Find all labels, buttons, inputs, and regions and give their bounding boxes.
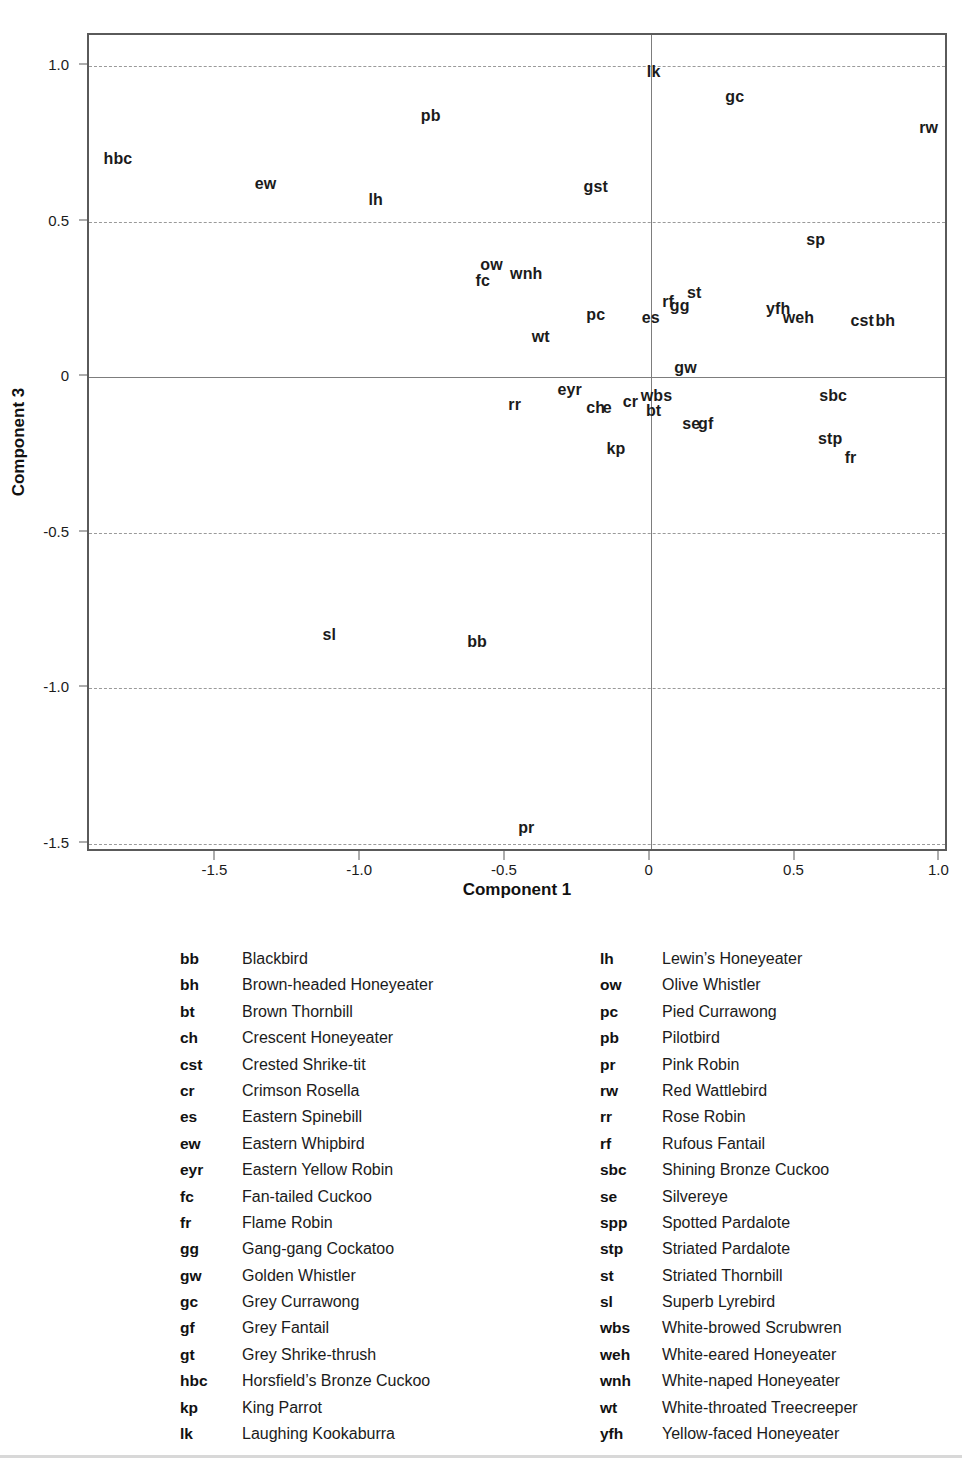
legend-column-right: lhLewin’s HoneyeaterowOlive WhistlerpcPi…: [600, 950, 962, 1451]
y-tick--0.5: -0.5: [43, 522, 81, 539]
legend-name-pc: Pied Currawong: [662, 1003, 777, 1021]
x-tick--0.5: -0.5: [491, 861, 517, 878]
point-label-ew: ew: [255, 175, 277, 193]
legend-code-gg: gg: [180, 1240, 242, 1258]
x-tick-0.5: 0.5: [783, 861, 804, 878]
legend-row-bb: bbBlackbird: [180, 950, 580, 976]
legend-code-wbs: wbs: [600, 1319, 662, 1337]
y-tick-0.5: 0.5: [48, 211, 81, 228]
legend-name-kp: King Parrot: [242, 1399, 322, 1417]
gridline-y-0.5: [89, 222, 945, 223]
legend-code-bh: bh: [180, 976, 242, 994]
plot-frame: lkgcpbrwhbcewgstlhspowwnhfcstrfggyfhpces…: [87, 33, 947, 851]
legend-row-rf: rfRufous Fantail: [600, 1135, 962, 1161]
y-tick-0: 0: [61, 367, 81, 384]
point-label-kp: kp: [607, 440, 626, 458]
legend-code-gf: gf: [180, 1319, 242, 1337]
legend-row-pc: pcPied Currawong: [600, 1003, 962, 1029]
legend-row-se: seSilvereye: [600, 1188, 962, 1214]
legend-row-cr: crCrimson Rosella: [180, 1082, 580, 1108]
point-label-eyr: eyr: [558, 381, 582, 399]
point-label-pr: pr: [518, 819, 534, 837]
legend-name-lk: Laughing Kookaburra: [242, 1425, 395, 1443]
x-tick--1.0: -1.0: [346, 861, 372, 878]
legend-name-spp: Spotted Pardalote: [662, 1214, 790, 1232]
legend-name-bh: Brown-headed Honeyeater: [242, 976, 433, 994]
point-label-gc: gc: [725, 88, 744, 106]
legend-row-hbc: hbcHorsfield’s Bronze Cuckoo: [180, 1372, 580, 1398]
legend-row-rr: rrRose Robin: [600, 1108, 962, 1134]
legend-name-cst: Crested Shrike-tit: [242, 1056, 366, 1074]
legend-code-yfh: yfh: [600, 1425, 662, 1443]
legend-row-yfh: yfhYellow-faced Honeyeater: [600, 1425, 962, 1451]
page-bottom-rule: [0, 1455, 962, 1458]
x-tick-mark-1.0: [938, 851, 939, 860]
gridline-y--1.0: [89, 688, 945, 689]
legend-name-wt: White-throated Treecreeper: [662, 1399, 858, 1417]
legend-code-fc: fc: [180, 1188, 242, 1206]
legend-name-ow: Olive Whistler: [662, 976, 761, 994]
point-label-hbc: hbc: [104, 150, 133, 168]
legend-code-eyr: eyr: [180, 1161, 242, 1179]
point-label-rr: rr: [508, 396, 521, 414]
legend-code-gc: gc: [180, 1293, 242, 1311]
legend-name-sl: Superb Lyrebird: [662, 1293, 775, 1311]
point-label-rw: rw: [919, 119, 938, 137]
y-tick-mark-0.5: [79, 219, 87, 220]
point-label-fr: fr: [845, 449, 857, 467]
legend-row-lh: lhLewin’s Honeyeater: [600, 950, 962, 976]
legend-name-st: Striated Thornbill: [662, 1267, 783, 1285]
legend-row-weh: wehWhite-eared Honeyeater: [600, 1346, 962, 1372]
legend-row-sbc: sbcShining Bronze Cuckoo: [600, 1161, 962, 1187]
legend-code-bt: bt: [180, 1003, 242, 1021]
legend-code-wt: wt: [600, 1399, 662, 1417]
legend-row-gg: ggGang-gang Cockatoo: [180, 1240, 580, 1266]
legend-row-cst: cstCrested Shrike-tit: [180, 1056, 580, 1082]
legend-name-wnh: White-naped Honeyeater: [662, 1372, 840, 1390]
legend-code-hbc: hbc: [180, 1372, 242, 1390]
gridline-y--1.5: [89, 844, 945, 845]
y-tick--1.0: -1.0: [43, 678, 81, 695]
x-axis-label-text: Component 1: [463, 880, 572, 899]
legend-name-bb: Blackbird: [242, 950, 308, 968]
legend-row-gf: gfGrey Fantail: [180, 1319, 580, 1345]
point-label-sl: sl: [323, 626, 337, 644]
point-label-gf: gf: [698, 415, 713, 433]
legend-name-ew: Eastern Whipbird: [242, 1135, 365, 1153]
legend-row-es: esEastern Spinebill: [180, 1108, 580, 1134]
legend-row-rw: rwRed Wattlebird: [600, 1082, 962, 1108]
legend-name-hbc: Horsfield’s Bronze Cuckoo: [242, 1372, 430, 1390]
point-label-sp: sp: [806, 231, 825, 249]
legend-name-es: Eastern Spinebill: [242, 1108, 362, 1126]
legend-row-fc: fcFan-tailed Cuckoo: [180, 1188, 580, 1214]
reference-line-x0: [651, 35, 652, 849]
legend-code-rf: rf: [600, 1135, 662, 1153]
legend-name-pr: Pink Robin: [662, 1056, 739, 1074]
legend-name-gw: Golden Whistler: [242, 1267, 356, 1285]
legend-row-fr: frFlame Robin: [180, 1214, 580, 1240]
legend-code-stp: stp: [600, 1240, 662, 1258]
legend-row-kp: kpKing Parrot: [180, 1399, 580, 1425]
point-label-e: e: [603, 399, 612, 417]
legend-row-spp: sppSpotted Pardalote: [600, 1214, 962, 1240]
legend-row-wbs: wbsWhite-browed Scrubwren: [600, 1319, 962, 1345]
point-label-weh: weh: [783, 309, 814, 327]
legend-row-bh: bhBrown-headed Honeyeater: [180, 976, 580, 1002]
legend-code-weh: weh: [600, 1346, 662, 1364]
legend-code-st: st: [600, 1267, 662, 1285]
legend-code-rr: rr: [600, 1108, 662, 1126]
legend-name-lh: Lewin’s Honeyeater: [662, 950, 802, 968]
point-label-cst: cst: [850, 312, 873, 330]
legend-code-pb: pb: [600, 1029, 662, 1047]
legend-row-gw: gwGolden Whistler: [180, 1267, 580, 1293]
legend-code-pc: pc: [600, 1003, 662, 1021]
legend-name-weh: White-eared Honeyeater: [662, 1346, 836, 1364]
legend-column-left: bbBlackbirdbhBrown-headed HoneyeaterbtBr…: [180, 950, 580, 1451]
x-tick--1.5: -1.5: [201, 861, 227, 878]
legend-name-wbs: White-browed Scrubwren: [662, 1319, 842, 1337]
legend-row-pr: prPink Robin: [600, 1056, 962, 1082]
legend-name-gf: Grey Fantail: [242, 1319, 329, 1337]
legend-name-rw: Red Wattlebird: [662, 1082, 767, 1100]
legend-code-ow: ow: [600, 976, 662, 994]
x-tick-mark--1.5: [214, 851, 215, 860]
